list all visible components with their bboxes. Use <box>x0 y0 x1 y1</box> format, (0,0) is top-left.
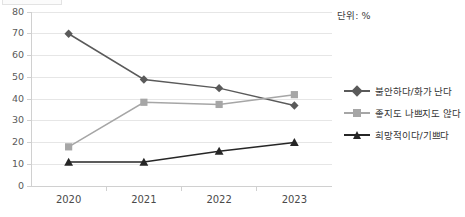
x-axis-tick-labels: 2020202120222023 <box>56 194 307 205</box>
y-tick-label: 60 <box>12 49 24 60</box>
legend-item-anxious-angry[interactable]: 불안하다/화가 난다 <box>344 80 465 102</box>
y-tick-label: 50 <box>12 71 24 82</box>
legend-label: 희망적이다/기쁘다 <box>375 128 449 142</box>
diamond-marker-icon <box>140 75 148 83</box>
square-marker-icon <box>140 99 147 106</box>
line-chart-svg: 01020304050607080 2020202120222023 <box>0 0 340 217</box>
x-tick-label: 2023 <box>282 194 307 205</box>
legend-label: 불안하다/화가 난다 <box>375 84 452 98</box>
y-tick-label: 30 <box>12 114 24 125</box>
legend-marker-square-icon <box>344 106 370 120</box>
y-tick-label: 10 <box>12 158 24 169</box>
data-series <box>64 30 299 166</box>
diamond-marker-icon <box>215 84 223 92</box>
chart-container: 단위: % 01020304050607080 2020202120222023… <box>0 0 465 217</box>
square-marker-icon <box>65 143 72 150</box>
legend-marker-diamond-icon <box>344 84 370 98</box>
x-tick-label: 2022 <box>206 194 231 205</box>
chart-legend: 불안하다/화가 난다 좋지도 나쁘지도 않다 희망적이다/기쁘다 <box>344 80 465 146</box>
y-axis-tick-labels: 01020304050607080 <box>12 6 24 191</box>
y-tick-label: 80 <box>12 6 24 17</box>
series-diamond <box>64 30 298 110</box>
series-line <box>69 34 295 106</box>
y-tick-label: 20 <box>12 136 24 147</box>
legend-item-neutral[interactable]: 좋지도 나쁘지도 않다 <box>344 102 465 124</box>
y-tick-label: 0 <box>18 180 24 191</box>
x-tick-label: 2021 <box>131 194 156 205</box>
series-line <box>69 143 295 163</box>
y-tick-label: 70 <box>12 27 24 38</box>
legend-label: 좋지도 나쁘지도 않다 <box>375 106 461 120</box>
diamond-marker-icon <box>351 85 362 96</box>
plot-area: 01020304050607080 2020202120222023 <box>0 0 340 217</box>
legend-item-hopeful-happy[interactable]: 희망적이다/기쁘다 <box>344 124 465 146</box>
triangle-marker-icon <box>353 131 361 139</box>
legend-marker-triangle-icon <box>344 128 370 142</box>
square-marker-icon <box>291 91 298 98</box>
unit-label: 단위: % <box>337 8 371 22</box>
diamond-marker-icon <box>64 30 72 38</box>
diamond-marker-icon <box>290 101 298 109</box>
y-tick-label: 40 <box>12 93 24 104</box>
square-marker-icon <box>216 101 223 108</box>
x-tick-label: 2020 <box>56 194 81 205</box>
square-marker-icon <box>353 109 361 117</box>
gridlines <box>31 12 332 164</box>
